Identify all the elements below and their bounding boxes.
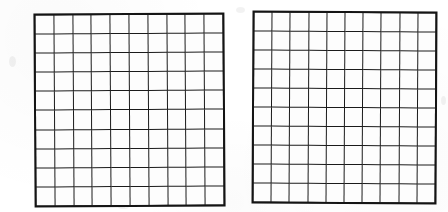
grid-cell[interactable] <box>167 129 186 148</box>
grid-cell[interactable] <box>205 186 224 205</box>
grid-cell[interactable] <box>36 149 55 168</box>
grid-cell[interactable] <box>290 88 308 107</box>
grid-cell[interactable] <box>417 127 435 146</box>
grid-cell[interactable] <box>111 110 130 129</box>
grid-cell[interactable] <box>148 14 167 33</box>
grid-cell[interactable] <box>130 148 149 167</box>
grid-cell[interactable] <box>326 164 344 183</box>
grid-cell[interactable] <box>327 31 345 50</box>
grid-cell[interactable] <box>205 128 224 147</box>
grid-cell[interactable] <box>129 14 148 33</box>
grid-cell[interactable] <box>130 129 149 148</box>
grid-cell[interactable] <box>148 72 167 91</box>
grid-cell[interactable] <box>55 168 74 187</box>
grid-cell[interactable] <box>381 108 399 127</box>
grid-cell[interactable] <box>54 34 73 53</box>
grid-cell[interactable] <box>110 34 129 53</box>
grid-cell[interactable] <box>399 13 417 32</box>
grid-cell[interactable] <box>381 51 399 70</box>
grid-cell[interactable] <box>399 165 417 184</box>
grid-cell[interactable] <box>186 90 205 109</box>
grid-cell[interactable] <box>148 91 167 110</box>
grid-cell[interactable] <box>417 70 435 89</box>
grid-cell[interactable] <box>417 32 435 51</box>
grid-cell[interactable] <box>186 186 205 205</box>
grid-cell[interactable] <box>91 15 110 34</box>
grid-cell[interactable] <box>272 69 290 88</box>
grid-cell[interactable] <box>253 183 271 202</box>
grid-cell[interactable] <box>254 69 272 88</box>
grid-cell[interactable] <box>54 129 73 148</box>
grid-cell[interactable] <box>308 126 326 145</box>
grid-cell[interactable] <box>35 34 54 53</box>
grid-cell[interactable] <box>345 70 363 89</box>
grid-cell[interactable] <box>271 126 289 145</box>
grid-cell[interactable] <box>308 31 326 50</box>
grid-cell[interactable] <box>36 110 55 129</box>
grid-cell[interactable] <box>73 91 92 110</box>
grid-cell[interactable] <box>271 164 289 183</box>
grid-cell[interactable] <box>326 145 344 164</box>
grid-cell[interactable] <box>290 69 308 88</box>
grid-cell[interactable] <box>36 168 55 187</box>
grid-cell[interactable] <box>326 50 344 69</box>
grid-cell[interactable] <box>92 72 111 91</box>
grid-cell[interactable] <box>148 110 167 129</box>
grid-cell[interactable] <box>73 53 92 72</box>
grid-cell[interactable] <box>326 88 344 107</box>
grid-cell[interactable] <box>167 52 186 71</box>
grid-cell[interactable] <box>167 148 186 167</box>
grid-cell[interactable] <box>148 52 167 71</box>
grid-cell[interactable] <box>326 69 344 88</box>
grid-cell[interactable] <box>362 127 380 146</box>
grid-cell[interactable] <box>272 88 290 107</box>
grid-cell[interactable] <box>289 164 307 183</box>
grid-cell[interactable] <box>363 51 381 70</box>
grid-cell[interactable] <box>129 110 148 129</box>
grid-cell[interactable] <box>167 110 186 129</box>
grid-cell[interactable] <box>73 15 92 34</box>
grid-cell[interactable] <box>110 53 129 72</box>
grid-cell[interactable] <box>185 14 204 33</box>
grid-cell[interactable] <box>308 145 326 164</box>
grid-cell[interactable] <box>73 34 92 53</box>
grid-cell[interactable] <box>363 70 381 89</box>
grid-cell[interactable] <box>381 127 399 146</box>
grid-cell[interactable] <box>272 50 290 69</box>
grid-cell[interactable] <box>272 107 290 126</box>
grid-cell[interactable] <box>186 110 205 129</box>
grid-cell[interactable] <box>74 187 93 206</box>
grid-cell[interactable] <box>111 129 130 148</box>
grid-cell[interactable] <box>254 31 272 50</box>
grid-cell[interactable] <box>129 91 148 110</box>
grid-cell[interactable] <box>186 129 205 148</box>
grid-cell[interactable] <box>204 52 223 71</box>
grid-cell[interactable] <box>326 126 344 145</box>
grid-cell[interactable] <box>272 31 290 50</box>
grid-cell[interactable] <box>363 108 381 127</box>
grid-cell[interactable] <box>399 108 417 127</box>
grid-cell[interactable] <box>344 107 362 126</box>
grid-cell[interactable] <box>345 51 363 70</box>
grid-cell[interactable] <box>129 33 148 52</box>
grid-cell[interactable] <box>308 107 326 126</box>
grid-cell[interactable] <box>308 88 326 107</box>
grid-cell[interactable] <box>417 108 435 127</box>
grid-cell[interactable] <box>380 165 398 184</box>
grid-cell[interactable] <box>253 107 271 126</box>
grid-cell[interactable] <box>92 110 111 129</box>
grid-cell[interactable] <box>418 13 436 32</box>
grid-cell[interactable] <box>399 70 417 89</box>
grid-cell[interactable] <box>35 15 54 34</box>
grid-cell[interactable] <box>167 91 186 110</box>
right-hundred-grid[interactable] <box>253 12 437 204</box>
grid-cell[interactable] <box>326 107 344 126</box>
grid-cell[interactable] <box>167 167 186 186</box>
grid-cell[interactable] <box>290 12 308 31</box>
grid-cell[interactable] <box>111 91 130 110</box>
grid-cell[interactable] <box>381 89 399 108</box>
grid-cell[interactable] <box>417 146 435 165</box>
grid-cell[interactable] <box>399 146 417 165</box>
grid-cell[interactable] <box>36 187 55 206</box>
grid-cell[interactable] <box>380 184 398 203</box>
